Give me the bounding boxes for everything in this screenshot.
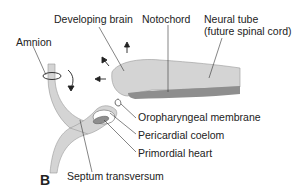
panel-label: B [40, 172, 50, 188]
label-developing-brain: Developing brain [54, 13, 133, 25]
oropharyngeal-membrane [115, 99, 121, 106]
label-oropharyngeal-membrane: Oropharyngeal membrane [138, 111, 261, 123]
label-pericardial-coelom: Pericardial coelom [138, 129, 224, 141]
label-neural-tube-sub: (future spinal cord) [204, 25, 292, 37]
label-amnion: Amnion [16, 36, 52, 48]
label-notochord: Notochord [142, 13, 190, 25]
amnion-band [48, 64, 88, 173]
label-neural-tube: Neural tube [204, 13, 258, 25]
label-septum-transversum: Septum transversum [67, 170, 164, 182]
label-primordial-heart: Primordial heart [138, 147, 212, 159]
